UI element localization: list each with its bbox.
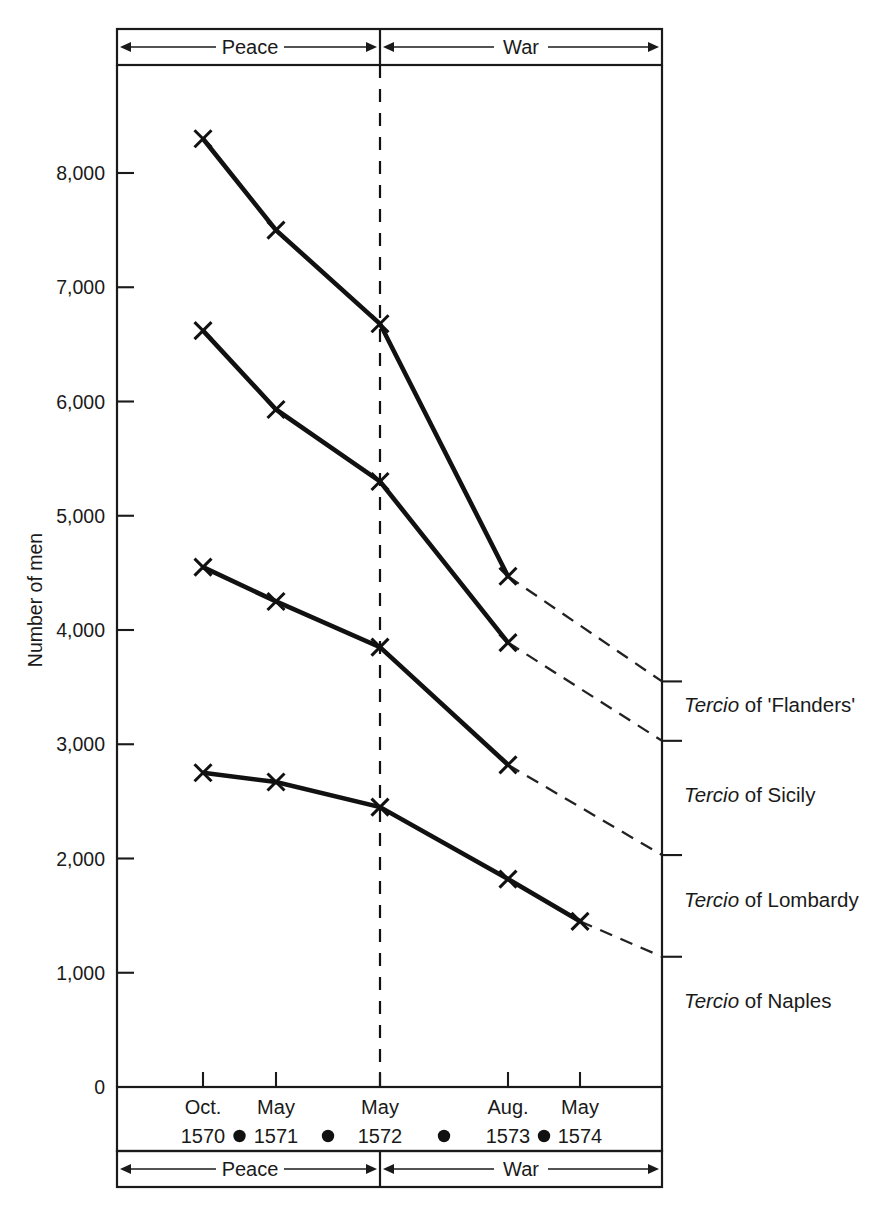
legend-term-rest: of 'Flanders': [739, 693, 855, 716]
band-arrows-bottom: [120, 1164, 659, 1174]
tercio-strength-line-chart: Peace War 01,0002,0003,0004,0005,0006,00…: [0, 0, 881, 1210]
x-axis-dot-separator: [538, 1130, 550, 1142]
x-axis-month-label: May: [257, 1096, 295, 1118]
data-point-marker: [268, 222, 285, 239]
data-point-marker: [500, 568, 517, 585]
series-line: [203, 139, 508, 577]
series-line: [203, 567, 508, 765]
series-0: [195, 130, 663, 681]
x-axis-month-label: May: [561, 1096, 599, 1118]
data-point-marker: [195, 322, 212, 339]
bottom-period-band: Peace War: [117, 1151, 662, 1187]
series-projection-dashed: [580, 921, 662, 956]
top-period-band: Peace War: [117, 29, 662, 65]
y-tick-label: 5,000: [56, 505, 105, 527]
x-axis-dot-separator: [233, 1130, 245, 1142]
band-label-war-bottom: War: [503, 1158, 539, 1180]
legend-term-italic: Tercio: [684, 888, 739, 911]
data-point-marker: [268, 593, 285, 610]
legend-term-rest: of Sicily: [739, 783, 816, 806]
x-axis-dot-separator: [438, 1130, 450, 1142]
y-tick-label: 1,000: [56, 962, 105, 984]
series-line: [203, 773, 580, 922]
x-axis-year-label: 1573: [486, 1125, 531, 1147]
legend-term-italic: Tercio: [684, 989, 739, 1012]
legend-label-1: Tercio of Sicily: [684, 783, 816, 806]
plot-frame: [117, 65, 662, 1087]
legend-term-italic: Tercio: [684, 783, 739, 806]
y-tick-label: 7,000: [56, 276, 105, 298]
data-point-marker: [500, 871, 517, 888]
y-tick-label: 4,000: [56, 619, 105, 641]
data-point-marker: [268, 401, 285, 418]
x-axis-month-label: Oct.: [185, 1096, 222, 1118]
x-axis-year-label: 1572: [358, 1125, 403, 1147]
legend-term-rest: of Lombardy: [739, 888, 859, 911]
series-1: [195, 322, 663, 741]
band-label-peace-top: Peace: [222, 36, 279, 58]
x-axis-year-label: 1574: [558, 1125, 603, 1147]
y-axis-title: Number of men: [24, 533, 46, 667]
legend-label-3: Tercio of Naples: [684, 989, 831, 1012]
x-axis-year-label: 1571: [254, 1125, 299, 1147]
x-axis-month-label: Aug.: [487, 1096, 528, 1118]
data-point-marker: [500, 756, 517, 773]
x-axis-month-label: May: [361, 1096, 399, 1118]
legend-label-0: Tercio of 'Flanders': [684, 693, 855, 716]
x-axis-year-label: 1570: [181, 1125, 226, 1147]
y-tick-label: 2,000: [56, 848, 105, 870]
x-label-box: Oct.1570May1571May1572Aug.1573May1574: [117, 1087, 662, 1151]
data-point-marker: [195, 559, 212, 576]
legend: Tercio of 'Flanders'Tercio of SicilyTerc…: [684, 693, 859, 1012]
data-point-marker: [500, 634, 517, 651]
series-3: [195, 764, 663, 956]
y-tick-label: 6,000: [56, 391, 105, 413]
band-arrows-top: [120, 42, 659, 52]
series-layer: [195, 130, 663, 957]
y-tick-label: 8,000: [56, 162, 105, 184]
band-label-peace-bottom: Peace: [222, 1158, 279, 1180]
series-2: [195, 559, 663, 855]
data-point-marker: [572, 913, 589, 930]
x-axis-dot-separator: [322, 1130, 334, 1142]
y-axis: 01,0002,0003,0004,0005,0006,0007,0008,00…: [56, 162, 134, 1098]
legend-label-2: Tercio of Lombardy: [684, 888, 859, 911]
right-edge-projection-ticks: [662, 681, 682, 956]
x-axis: [203, 1072, 580, 1087]
legend-term-rest: of Naples: [739, 989, 831, 1012]
series-projection-dashed: [508, 765, 662, 855]
y-tick-label: 0: [94, 1076, 105, 1098]
chart-figure: Peace War 01,0002,0003,0004,0005,0006,00…: [0, 0, 881, 1210]
y-tick-label: 3,000: [56, 733, 105, 755]
data-point-marker: [195, 130, 212, 147]
band-label-war-top: War: [503, 36, 539, 58]
series-projection-dashed: [508, 576, 662, 681]
legend-term-italic: Tercio: [684, 693, 739, 716]
series-projection-dashed: [508, 643, 662, 741]
